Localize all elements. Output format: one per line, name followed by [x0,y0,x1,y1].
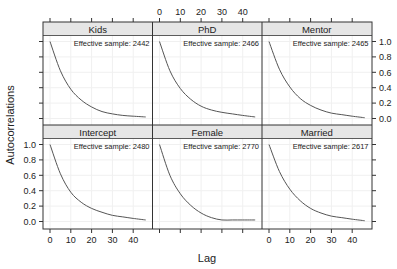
y-tick-label: 1.0 [379,37,392,47]
acf-line [269,145,365,221]
x-tick-label: 0 [266,235,271,245]
panel-borders [43,22,372,229]
x-tick-label: 10 [66,235,76,245]
x-tick-label: 40 [128,235,138,245]
effective-sample-annotation: Effective sample: 2617 [293,142,369,151]
x-tick-label: 30 [107,235,117,245]
x-tick-label: 0 [157,7,162,17]
y-tick-label: 0.0 [23,217,36,227]
strip-label: PhD [198,24,217,35]
panel-female: FemaleEffective sample: 2770 [153,125,263,229]
x-tick-label: 30 [217,7,227,17]
trellis-chart: KidsEffective sample: 2442PhDEffective s… [0,0,397,269]
panel-kids: KidsEffective sample: 2442 [43,22,153,126]
acf-line [160,42,256,117]
effective-sample-annotation: Effective sample: 2480 [74,142,150,151]
acf-line [50,42,146,117]
y-tick-label: 0.4 [23,186,36,196]
x-tick-label: 20 [196,7,206,17]
y-tick-label: 0.2 [379,98,392,108]
y-tick-label: 1.0 [23,140,36,150]
panel-mentor: MentorEffective sample: 2465 [262,22,372,126]
x-tick-label: 40 [347,235,357,245]
y-tick-label: 0.6 [379,68,392,78]
acf-line [269,42,365,118]
panel-phd: PhDEffective sample: 2466 [153,22,263,126]
strip-label: Married [301,127,333,138]
y-tick-label: 0.4 [379,83,392,93]
y-tick-label: 0.0 [379,114,392,124]
x-tick-label: 0 [47,235,52,245]
y-tick-label: 0.8 [23,155,36,165]
strip-label: Intercept [79,127,116,138]
y-tick-label: 0.2 [23,201,36,211]
effective-sample-annotation: Effective sample: 2465 [293,39,369,48]
acf-line [50,145,146,220]
x-tick-label: 20 [87,235,97,245]
panel-married: MarriedEffective sample: 2617 [262,125,372,229]
x-tick-label: 40 [238,7,248,17]
effective-sample-annotation: Effective sample: 2770 [183,142,259,151]
y-tick-label: 0.8 [379,52,392,62]
x-tick-label: 20 [306,235,316,245]
strip-label: Mentor [302,24,332,35]
y-tick-label: 0.6 [23,171,36,181]
panel-intercept: InterceptEffective sample: 2480 [43,125,153,229]
strip-label: Kids [89,24,108,35]
x-tick-label: 10 [285,235,295,245]
x-axis-label: Lag [198,252,216,264]
effective-sample-annotation: Effective sample: 2442 [74,39,150,48]
y-axis-label: Autocorrelations [4,85,16,165]
x-tick-label: 10 [175,7,185,17]
acf-line [160,145,256,221]
x-tick-label: 30 [326,235,336,245]
strip-label: Female [191,127,223,138]
effective-sample-annotation: Effective sample: 2466 [183,39,259,48]
